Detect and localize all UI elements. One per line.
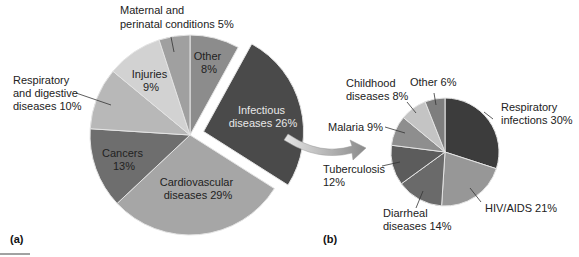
label-respiratory-digestive: Respiratory and digestive diseases 10% [13, 74, 82, 112]
label-infectious: Infectious diseases 26% [229, 104, 298, 129]
label-maternal: Maternal and perinatal conditions 5% [120, 4, 234, 30]
label-hiv-aids: HIV/AIDS 21% [485, 202, 557, 214]
label-malaria: Malaria 9% [328, 121, 383, 133]
label-other-b: Other 6% [410, 76, 457, 88]
label-cardiovascular: Cardiovascular diseases 29% [160, 176, 236, 201]
pie-chart-a [90, 35, 304, 235]
pie-chart-b [391, 98, 499, 206]
label-childhood: Childhood diseases 8% [346, 77, 409, 102]
label-diarrheal: Diarrheal diseases 14% [383, 207, 452, 232]
panel-label-b: (b) [323, 233, 337, 245]
panel-label-a: (a) [10, 233, 24, 245]
label-respiratory-infections: Respiratory infections 30% [501, 101, 573, 126]
figure: Maternal and perinatal conditions 5% Oth… [0, 0, 579, 257]
label-tuberculosis: Tuberculosis 12% [323, 163, 388, 188]
